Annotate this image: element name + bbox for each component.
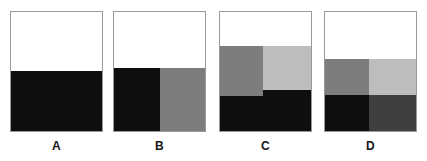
panel-c: [219, 11, 312, 132]
panel-a-bottom-black-half: [11, 71, 102, 131]
panel-c-right-black-block: [263, 90, 311, 131]
panel-b-bottom-right-gray-quarter: [160, 68, 205, 131]
panel-a-top-white-half: [11, 12, 102, 71]
panel-b-label: B: [113, 139, 206, 153]
panel-d-bottom-left-black: [325, 95, 369, 131]
panel-c-label: C: [219, 139, 312, 153]
panel-c-top-white-band: [220, 12, 311, 46]
panel-d-label: D: [324, 139, 417, 153]
panel-c-left-medium-gray-block: [220, 46, 263, 96]
panel-a: [10, 11, 103, 132]
panel-c-bottom-left-black-band: [220, 96, 263, 131]
panel-d: [324, 11, 417, 132]
panel-d-bottom-right-dark-gray: [369, 95, 416, 131]
panel-b: [113, 11, 206, 132]
panel-c-right-light-gray-block: [263, 46, 311, 90]
panel-b-bottom-left-black-quarter: [114, 68, 160, 131]
panel-d-mid-right-light-gray: [369, 59, 416, 95]
panel-a-label: A: [10, 139, 103, 153]
panel-d-mid-left-medium-gray: [325, 59, 369, 95]
figure-stage: ABCD: [0, 0, 427, 161]
panel-b-top-white-half: [114, 12, 205, 68]
panel-d-top-white-band: [325, 12, 416, 59]
